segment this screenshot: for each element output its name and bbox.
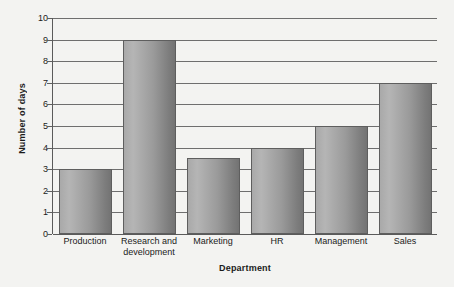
y-tick-10 (47, 18, 52, 19)
bar (59, 169, 112, 234)
y-tick-8 (47, 61, 52, 62)
gridline-0 (53, 234, 437, 235)
y-tick-7 (47, 83, 52, 84)
bar (251, 148, 304, 234)
bar (379, 83, 432, 234)
bar (123, 40, 176, 234)
y-tick-6 (47, 104, 52, 105)
y-tick-9 (47, 40, 52, 41)
y-tick-4 (47, 148, 52, 149)
y-tick-0 (47, 234, 52, 235)
y-tick-3 (47, 169, 52, 170)
bar (187, 158, 240, 234)
y-tick-5 (47, 126, 52, 127)
y-tick-2 (47, 191, 52, 192)
x-tick-label: Management (309, 236, 373, 247)
bar-series (53, 18, 437, 234)
x-tick-label: Production (53, 236, 117, 247)
x-axis-title: Department (53, 263, 437, 273)
y-tick-1 (47, 212, 52, 213)
bar (315, 126, 368, 234)
x-tick-label: Sales (373, 236, 437, 247)
plot-area (53, 18, 437, 234)
x-tick-label: Marketing (181, 236, 245, 247)
bar-chart: Number of days 012345678910 ProductionRe… (0, 0, 454, 287)
x-tick-label: Research and development (117, 236, 181, 258)
y-axis-tick-labels: 012345678910 (28, 0, 48, 240)
y-axis-title-label: Number of days (17, 83, 27, 154)
x-tick-label: HR (245, 236, 309, 247)
